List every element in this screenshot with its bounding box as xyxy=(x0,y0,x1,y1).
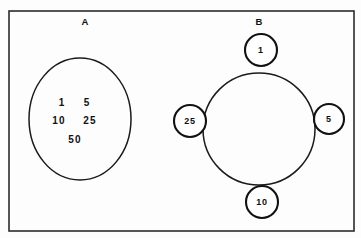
panel-a-label: A xyxy=(82,16,89,27)
panel-b-main-circle xyxy=(203,73,315,185)
panel-b-node-right: 5 xyxy=(314,104,344,134)
node-label-bottom: 10 xyxy=(256,197,268,207)
panel-a-ellipse xyxy=(29,58,131,180)
diagram-figure: A 1 5 10 25 50 B 1 5 xyxy=(0,0,361,238)
panel-a: A 1 5 10 25 50 xyxy=(29,16,131,180)
panel-b-node-left: 25 xyxy=(174,105,206,137)
diagram-canvas: A 1 5 10 25 50 B 1 5 xyxy=(0,0,361,238)
node-label-top: 1 xyxy=(258,45,264,55)
panel-b-label: B xyxy=(256,16,263,27)
panel-a-member-1: 1 xyxy=(59,97,66,108)
panel-b-node-top: 1 xyxy=(245,34,277,66)
panel-a-member-25: 25 xyxy=(83,115,96,126)
panel-a-member-10: 10 xyxy=(52,115,65,126)
panel-a-member-50: 50 xyxy=(68,134,81,145)
panel-a-member-5: 5 xyxy=(84,97,91,108)
panel-b-node-bottom: 10 xyxy=(246,186,278,218)
panel-b: B 1 5 10 25 xyxy=(174,16,344,218)
node-label-left: 25 xyxy=(184,116,196,126)
node-label-right: 5 xyxy=(326,114,332,124)
